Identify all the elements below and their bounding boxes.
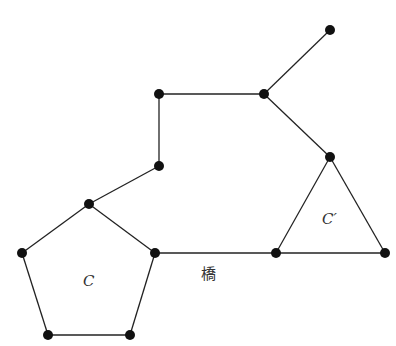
- node: [380, 248, 390, 258]
- node: [150, 248, 160, 258]
- edge-path: [89, 166, 159, 204]
- edge-triangle: [330, 157, 385, 253]
- cycle-c-label: C: [83, 272, 95, 290]
- cycle-c-prime-label: C′: [322, 210, 337, 228]
- edge-pentagon: [89, 204, 155, 253]
- node: [84, 199, 94, 209]
- node: [154, 161, 164, 171]
- nodes: [17, 25, 390, 340]
- edges: [22, 30, 385, 335]
- labels: C C′ 橋: [83, 210, 337, 290]
- graph-diagram: C C′ 橋: [0, 0, 396, 346]
- node: [154, 89, 164, 99]
- node: [259, 89, 269, 99]
- node: [271, 248, 281, 258]
- node: [325, 25, 335, 35]
- edge-pentagon: [130, 253, 155, 335]
- edge-pentagon: [22, 204, 89, 253]
- edge-leaf: [264, 30, 330, 94]
- edge-path: [264, 94, 330, 157]
- bridge-label: 橋: [201, 265, 216, 283]
- node: [125, 330, 135, 340]
- node: [325, 152, 335, 162]
- edge-triangle: [276, 157, 330, 253]
- node: [17, 248, 27, 258]
- node: [43, 330, 53, 340]
- edge-pentagon: [22, 253, 48, 335]
